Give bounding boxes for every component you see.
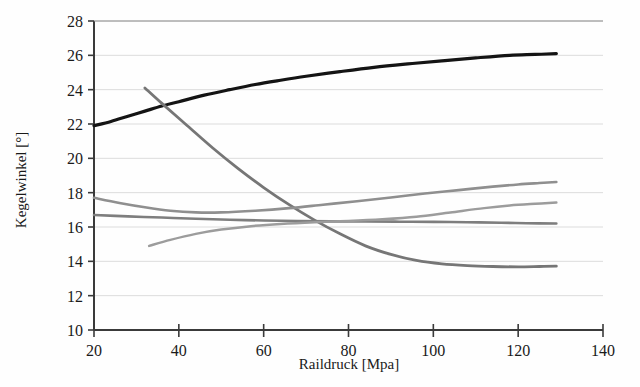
x-axis-title: Raildruck [Mpa] xyxy=(299,356,399,372)
chart-figure: 10121416182022242628 20406080100120140 R… xyxy=(0,0,640,387)
y-tick-label: 16 xyxy=(67,219,83,236)
x-tick-label: 120 xyxy=(506,342,530,359)
y-axis-title: Kegelwinkel [°] xyxy=(13,132,29,228)
y-tick-label: 18 xyxy=(67,185,83,202)
y-tick-label: 26 xyxy=(67,47,83,64)
x-tick-label: 60 xyxy=(256,342,272,359)
y-tick-label: 28 xyxy=(67,13,83,30)
y-tick-label: 24 xyxy=(67,82,83,99)
x-tick-label: 40 xyxy=(171,342,187,359)
x-tick-label: 20 xyxy=(86,342,102,359)
x-tick-label: 140 xyxy=(591,342,615,359)
x-tick-label: 100 xyxy=(421,342,445,359)
y-tick-label: 22 xyxy=(67,116,83,133)
y-tick-label: 20 xyxy=(67,150,83,167)
y-tick-label: 10 xyxy=(67,322,83,339)
line-chart: 10121416182022242628 20406080100120140 R… xyxy=(0,0,640,387)
y-tick-label: 12 xyxy=(67,288,83,305)
chart-background xyxy=(0,0,640,387)
y-tick-label: 14 xyxy=(67,253,83,270)
